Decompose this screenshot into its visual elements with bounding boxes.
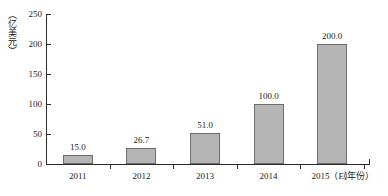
bar (254, 104, 284, 164)
x-category-label: 2012 (107, 171, 175, 181)
bar-value-label: 100.0 (245, 92, 293, 101)
bar (63, 155, 93, 164)
y-tick-label: 200 (16, 40, 42, 49)
x-axis-line (46, 164, 370, 165)
x-tick-mark (300, 164, 301, 169)
bar-value-label: 26.7 (117, 136, 165, 145)
y-tick-mark (46, 44, 51, 45)
x-tick-mark (364, 164, 365, 169)
y-tick-mark (46, 104, 51, 105)
y-tick-mark (46, 74, 51, 75)
bar-value-label: 200.0 (308, 32, 356, 41)
bar (317, 44, 347, 164)
x-tick-mark (173, 164, 174, 169)
y-tick-label: 50 (16, 130, 42, 139)
y-axis-title: （亿美元） (2, 10, 16, 55)
y-tick-mark (46, 164, 51, 165)
y-tick-label: 100 (16, 100, 42, 109)
x-axis-title: （年份） (338, 171, 374, 181)
x-category-label: 2013 (171, 171, 239, 181)
y-axis-line (46, 14, 47, 165)
x-axis-end-cap (369, 159, 370, 165)
y-tick-mark (46, 14, 51, 15)
x-category-label: 2011 (44, 171, 112, 181)
y-tick-label: 150 (16, 70, 42, 79)
x-tick-mark (110, 164, 111, 169)
bar-chart: （亿美元） 050100150200250 15.026.751.0100.02… (0, 0, 388, 196)
y-tick-mark (46, 134, 51, 135)
bar (126, 148, 156, 164)
y-tick-label: 0 (16, 160, 42, 169)
bar (190, 133, 220, 164)
bar-value-label: 51.0 (181, 121, 229, 130)
bar-value-label: 15.0 (54, 143, 102, 152)
y-tick-label: 250 (16, 10, 42, 19)
x-tick-mark (237, 164, 238, 169)
x-category-label: 2014 (235, 171, 303, 181)
